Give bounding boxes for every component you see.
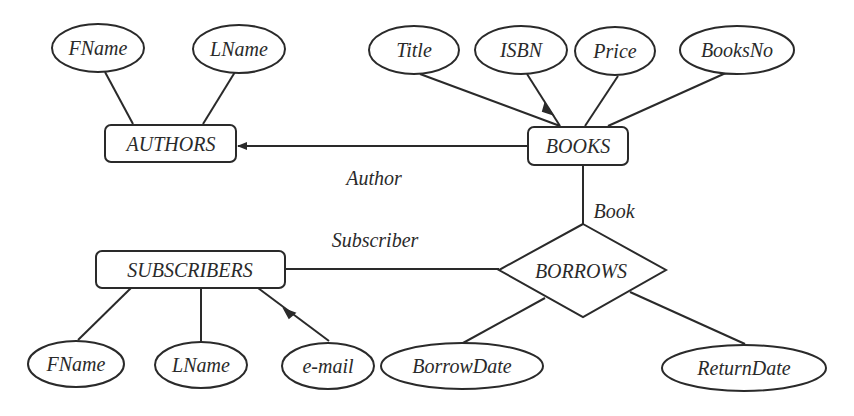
edge-borrowdate xyxy=(463,298,545,343)
edge-returndate xyxy=(630,292,745,344)
label-entity-books: BOOKS xyxy=(546,136,610,156)
label-subs-fname: FName xyxy=(47,354,106,374)
label-entity-authors: AUTHORS xyxy=(127,134,216,154)
er-diagram: FName LName Title ISBN Price BooksNo FNa… xyxy=(0,0,854,416)
arrow-email-icon xyxy=(284,309,295,318)
label-role-book: Book xyxy=(593,201,634,221)
edge-authors-lname xyxy=(203,72,235,124)
edge-books-price xyxy=(585,76,618,126)
label-role-author: Author xyxy=(346,168,402,188)
label-books-price: Price xyxy=(593,41,636,61)
label-authors-fname: FName xyxy=(69,38,128,58)
label-role-subscriber: Subscriber xyxy=(332,230,419,250)
label-books-isbn: ISBN xyxy=(500,40,542,60)
diagram-canvas xyxy=(0,0,854,416)
label-entity-subscribers: SUBSCRIBERS xyxy=(127,260,253,280)
label-returndate: ReturnDate xyxy=(697,358,790,378)
edge-books-title xyxy=(420,74,560,126)
label-relationship-borrows: BORROWS xyxy=(535,261,627,281)
edge-books-isbn xyxy=(527,74,560,126)
edge-authors-fname xyxy=(105,72,133,124)
edge-books-booksno xyxy=(608,72,728,126)
label-borrowdate: BorrowDate xyxy=(412,356,511,376)
label-authors-lname: LName xyxy=(210,39,268,59)
label-subs-email: e-mail xyxy=(302,356,353,376)
label-books-title: Title xyxy=(396,40,432,60)
edge-subs-fname xyxy=(78,288,131,340)
label-books-booksno: BooksNo xyxy=(701,40,773,60)
label-subs-lname: LName xyxy=(172,355,230,375)
